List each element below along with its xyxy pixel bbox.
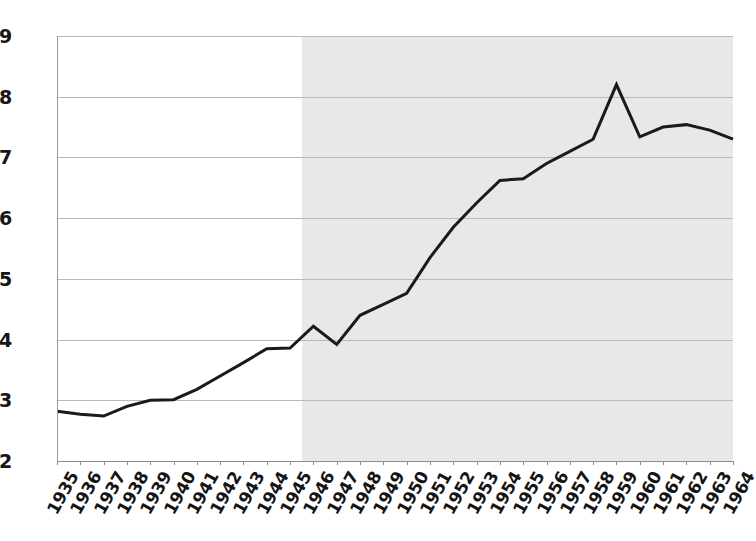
x-tick-1946 bbox=[313, 461, 314, 465]
x-tick-1948 bbox=[360, 461, 361, 465]
x-tick-1941 bbox=[197, 461, 198, 465]
y-tick-label-18: 18 bbox=[0, 87, 12, 106]
x-tick-1938 bbox=[127, 461, 128, 465]
x-tick-1939 bbox=[150, 461, 151, 465]
x-tick-1940 bbox=[174, 461, 175, 465]
x-tick-1947 bbox=[337, 461, 338, 465]
x-tick-1936 bbox=[80, 461, 81, 465]
y-tick-label-19: 19 bbox=[0, 27, 12, 46]
x-tick-1960 bbox=[640, 461, 641, 465]
x-tick-1964 bbox=[733, 461, 734, 465]
x-tick-1952 bbox=[453, 461, 454, 465]
y-tick-label-12: 12 bbox=[0, 452, 12, 471]
line-chart: 1213141516171819 19351936193719381939194… bbox=[0, 0, 756, 541]
x-tick-1953 bbox=[477, 461, 478, 465]
x-tick-1954 bbox=[500, 461, 501, 465]
x-tick-1942 bbox=[220, 461, 221, 465]
x-tick-1944 bbox=[267, 461, 268, 465]
x-tick-1962 bbox=[686, 461, 687, 465]
y-tick-label-13: 13 bbox=[0, 391, 12, 410]
x-tick-1956 bbox=[547, 461, 548, 465]
x-tick-1950 bbox=[407, 461, 408, 465]
x-tick-1937 bbox=[104, 461, 105, 465]
x-tick-1945 bbox=[290, 461, 291, 465]
data-series-line bbox=[57, 36, 733, 461]
plot-area bbox=[57, 36, 733, 461]
y-tick-label-17: 17 bbox=[0, 148, 12, 167]
x-tick-1949 bbox=[383, 461, 384, 465]
x-tick-1959 bbox=[616, 461, 617, 465]
x-tick-1955 bbox=[523, 461, 524, 465]
y-tick-label-15: 15 bbox=[0, 269, 12, 288]
x-tick-1943 bbox=[243, 461, 244, 465]
x-tick-1957 bbox=[570, 461, 571, 465]
y-axis-line bbox=[57, 36, 58, 462]
x-tick-1963 bbox=[710, 461, 711, 465]
x-axis-line bbox=[57, 461, 734, 462]
x-tick-1958 bbox=[593, 461, 594, 465]
x-tick-1961 bbox=[663, 461, 664, 465]
x-tick-1935 bbox=[57, 461, 58, 465]
y-tick-label-16: 16 bbox=[0, 209, 12, 228]
y-tick-label-14: 14 bbox=[0, 330, 12, 349]
x-tick-1951 bbox=[430, 461, 431, 465]
